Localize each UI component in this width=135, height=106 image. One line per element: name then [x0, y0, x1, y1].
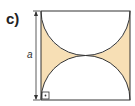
arrow-down-icon — [34, 95, 38, 100]
arrow-up-icon — [34, 11, 38, 16]
dimension-label: a — [27, 49, 33, 60]
geometry-figure: a — [0, 0, 135, 106]
right-angle-dot — [45, 95, 47, 97]
